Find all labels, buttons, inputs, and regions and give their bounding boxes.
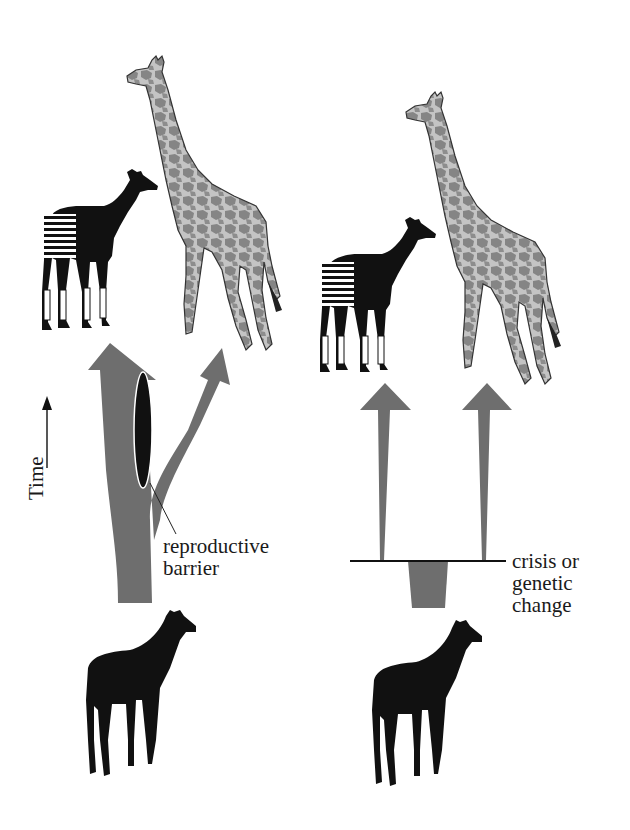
right-panel-punctuated [320,92,561,786]
speciation-diagram [0,0,630,830]
okapi-icon [320,217,436,372]
okapi-icon [42,169,158,330]
annotation-line: crisis or [512,550,579,572]
arrow-up-right-branch [462,383,512,560]
ancestral-trunk [408,561,448,608]
arrow-up-icon [42,396,52,410]
crisis-or-genetic-change-label: crisis or genetic change [512,550,579,616]
giraffe-icon [127,56,282,350]
reproductive-barrier-label: reproductive barrier [163,535,269,579]
reproductive-barrier-shape [134,372,152,488]
time-axis-label: Time [24,456,49,500]
annotation-line: reproductive [163,535,269,557]
left-panel-gradual [42,56,282,776]
annotation-line: change [512,594,579,616]
arrow-up-left-branch [360,383,411,560]
annotation-line: barrier [163,557,269,579]
ancestor-silhouette-right [372,620,482,786]
ancestor-silhouette-left [86,610,196,776]
annotation-line: genetic [512,572,579,594]
